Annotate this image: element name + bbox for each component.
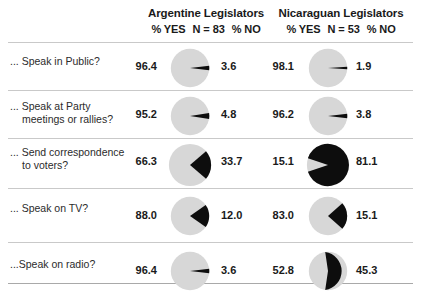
argentina-yes-value-1: 95.2 [127,108,157,120]
argentina-yes-value-2: 66.3 [127,155,157,167]
argentina-n-header: N = 83 [193,21,225,37]
argentina-yes-value-0: 96.4 [127,60,157,72]
pie-chart-nicaragua-1 [308,96,348,136]
pie-chart-nicaragua-0 [308,48,348,88]
table-rule-4 [8,242,413,243]
row-label-speak-on-radio: ...Speak on radio? [10,258,135,271]
argentina-no-value-3: 12.0 [221,209,255,221]
table-rule-3 [8,188,413,189]
argentina-no-value-1: 4.8 [221,108,255,120]
column-header-argentina: Argentine Legislators % YESN = 83% NO [137,6,275,37]
argentina-no-value-4: 3.6 [221,264,255,276]
argentina-no-header: % NO [232,21,261,37]
row-label-send-correspondence: ... Send correspondence to voters? [10,146,135,172]
pie-chart-nicaragua-2 [306,143,350,187]
argentina-yes-header: % YES [151,21,185,37]
pie-table-figure: Argentine Legislators % YESN = 83% NO Ni… [0,0,421,294]
row-label-speak-in-public: ... Speak in Public? [10,55,135,68]
pie-chart-argentina-1 [170,96,210,136]
table-rule-bottom [8,283,413,284]
pie-chart-nicaragua-3 [308,196,348,236]
pie-chart-argentina-3 [170,196,210,236]
table-rule-1 [8,90,413,91]
argentina-yes-value-3: 88.0 [127,209,157,221]
argentina-no-value-2: 33.7 [221,155,255,167]
pie-chart-argentina-2 [168,143,212,187]
column-header-nicaragua: Nicaraguan Legislators % YESN = 53% NO [268,6,414,37]
row-label-speak-on-tv: ... Speak on TV? [10,202,135,215]
nicaragua-no-header: % NO [367,21,396,37]
nicaragua-no-value-3: 15.1 [356,209,390,221]
table-rule-2 [8,138,413,139]
nicaragua-yes-value-0: 98.1 [264,60,294,72]
pie-chart-nicaragua-4 [308,251,348,291]
column-subheader-argentina: % YESN = 83% NO [137,21,275,37]
nicaragua-no-value-1: 3.8 [356,108,390,120]
pie-chart-argentina-0 [170,48,210,88]
column-title-argentina: Argentine Legislators [137,6,275,21]
nicaragua-yes-value-2: 15.1 [264,155,294,167]
nicaragua-n-header: N = 53 [328,21,360,37]
nicaragua-no-value-4: 45.3 [356,264,390,276]
row-label-speak-at-party-meetings: ... Speak at Party meetings or rallies? [10,100,135,126]
table-rule-top [8,42,413,43]
nicaragua-no-value-2: 81.1 [356,155,390,167]
pie-chart-argentina-4 [170,251,210,291]
column-title-nicaragua: Nicaraguan Legislators [268,6,414,21]
nicaragua-yes-value-4: 52.8 [264,264,294,276]
argentina-no-value-0: 3.6 [221,60,255,72]
argentina-yes-value-4: 96.4 [127,264,157,276]
column-subheader-nicaragua: % YESN = 53% NO [268,21,414,37]
nicaragua-yes-value-1: 96.2 [264,108,294,120]
nicaragua-yes-value-3: 83.0 [264,209,294,221]
nicaragua-yes-header: % YES [286,21,320,37]
nicaragua-no-value-0: 1.9 [356,60,390,72]
